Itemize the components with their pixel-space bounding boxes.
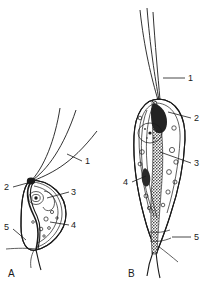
callout-a-1: 1 <box>85 156 90 166</box>
callout-b-3: 3 <box>194 158 199 168</box>
figure-plate: 1 2 3 4 5 A <box>0 0 215 286</box>
nucleolus <box>34 196 37 199</box>
callout-a-3: 3 <box>71 187 76 197</box>
illustration-canvas: 1 2 3 4 5 A <box>0 0 215 286</box>
callout-a-5: 5 <box>4 222 9 232</box>
nucleolus <box>148 131 151 134</box>
panel-label-b: B <box>128 268 135 279</box>
callout-b-1: 1 <box>188 73 193 83</box>
callout-b-4: 4 <box>123 177 128 187</box>
callout-b-5: 5 <box>194 232 199 242</box>
callout-a-4: 4 <box>71 220 76 230</box>
callout-b-2: 2 <box>194 113 199 123</box>
kinetosome <box>27 178 35 185</box>
callout-a-2: 2 <box>4 182 9 192</box>
panel-label-a: A <box>8 268 15 279</box>
